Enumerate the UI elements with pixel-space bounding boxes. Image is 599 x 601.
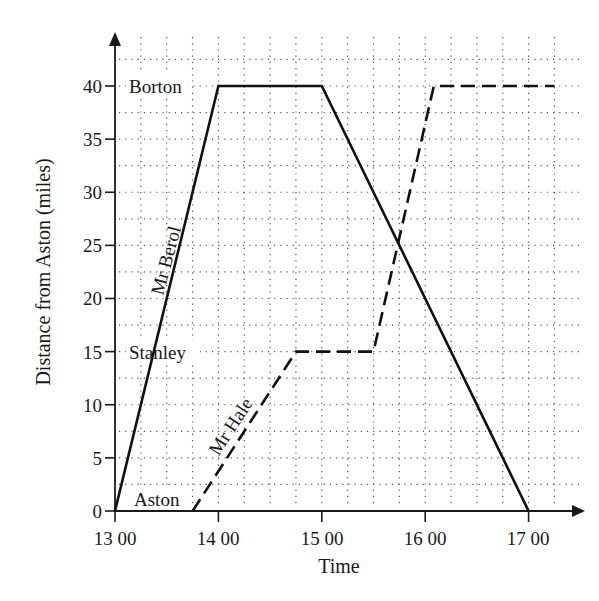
x-tick-label: 13 00 xyxy=(94,528,137,549)
axes xyxy=(109,32,585,517)
x-axis-arrow-icon xyxy=(572,505,585,517)
axis-ticks xyxy=(105,86,529,522)
x-tick-label: 15 00 xyxy=(301,528,344,549)
series-label-mr-berol: Mr Berol xyxy=(146,224,184,297)
place-label-aston: Aston xyxy=(134,489,180,510)
x-axis-title: Time xyxy=(318,555,360,577)
y-axis-title: Distance from Aston (miles) xyxy=(32,158,55,385)
y-tick-label: 25 xyxy=(83,235,102,256)
x-tick-label: 17 00 xyxy=(507,528,550,549)
place-label-borton: Borton xyxy=(129,76,182,97)
y-tick-label: 0 xyxy=(93,501,103,522)
y-tick-labels: 0 5 10 15 20 25 30 35 40 xyxy=(83,76,102,522)
place-label-stanley: Stanley xyxy=(129,342,186,363)
y-tick-label: 35 xyxy=(83,129,102,150)
series-label-mr-hale: Mr Hale xyxy=(204,394,256,459)
x-tick-labels: 13 00 14 00 15 00 16 00 17 00 xyxy=(94,528,550,549)
y-tick-label: 15 xyxy=(83,342,102,363)
y-axis-arrow-icon xyxy=(109,32,121,46)
x-tick-label: 14 00 xyxy=(197,528,240,549)
y-tick-label: 5 xyxy=(93,448,103,469)
y-tick-label: 40 xyxy=(83,76,102,97)
distance-time-graph: 13 00 14 00 15 00 16 00 17 00 0 5 10 15 … xyxy=(0,0,599,601)
y-tick-label: 30 xyxy=(83,182,102,203)
x-tick-label: 16 00 xyxy=(404,528,447,549)
y-tick-label: 10 xyxy=(83,395,102,416)
y-tick-label: 20 xyxy=(83,288,102,309)
grid-lines xyxy=(119,37,580,508)
